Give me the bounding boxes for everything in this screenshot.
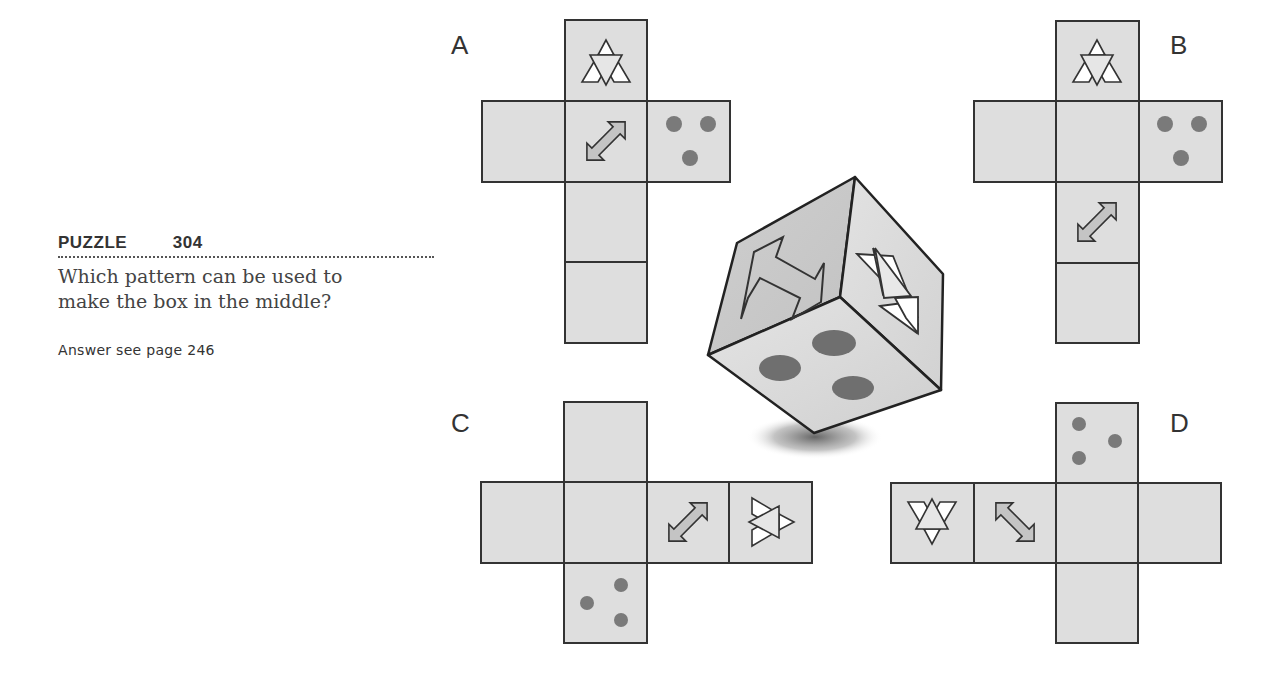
net-a-face-lower: [565, 182, 647, 262]
target-cube: [708, 177, 943, 459]
net-c-face-top: [564, 402, 647, 482]
net-b-face-center: [1056, 101, 1139, 182]
net-d-face-3: [1056, 483, 1138, 563]
net-d-face-4: [1138, 483, 1221, 563]
net-c-face-1: [481, 482, 564, 563]
net-b-face-left: [974, 101, 1056, 182]
net-d-face-top: [1056, 403, 1138, 483]
net-a-face-bottom: [565, 262, 647, 343]
net-c-face-bottom: [564, 563, 647, 643]
net-c-face-2: [564, 482, 647, 563]
net-d-face-bottom: [1056, 563, 1138, 643]
net-b-face-bottom: [1056, 263, 1139, 343]
net-b-face-right: [1139, 101, 1222, 182]
net-a-face-right: [647, 101, 730, 182]
net-a-face-left: [482, 101, 565, 182]
